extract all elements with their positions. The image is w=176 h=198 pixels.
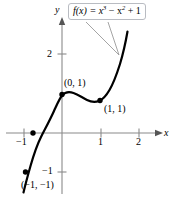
callout-leader-lines (86, 22, 119, 55)
y-tick-label-neg1: −1 (42, 166, 53, 176)
point-label-1-1: (1, 1) (104, 104, 126, 114)
point-label-neg1-neg1: (−1, −1) (21, 180, 54, 190)
y-tick-label-2: 2 (47, 49, 52, 59)
equation-prefix: f(x) = x (73, 5, 103, 16)
x-axis-label: x (164, 128, 168, 138)
equation-suffix: + 1 (125, 5, 141, 16)
point-label-0-1: (0, 1) (64, 78, 86, 88)
plot-canvas (0, 0, 176, 198)
function-equation-callout: f(x) = x3 − x2 + 1 (68, 3, 146, 20)
x-tick-label-2: 2 (136, 137, 141, 147)
x-tick-label-1: 1 (98, 137, 103, 147)
y-axis (59, 17, 65, 194)
marker-point-0-1 (59, 92, 64, 97)
marker-point-1-1 (97, 98, 102, 103)
math-figure: f(x) = x3 − x2 + 1 x y −1 1 2 2 −1 (0, 1… (0, 0, 176, 198)
equation-middle: − x (106, 5, 122, 16)
x-tick-label-neg1: −1 (16, 137, 27, 147)
y-axis-label: y (55, 5, 59, 15)
marker-point-neg1-neg1 (23, 169, 28, 174)
marker-point-x-intercept (30, 130, 35, 135)
